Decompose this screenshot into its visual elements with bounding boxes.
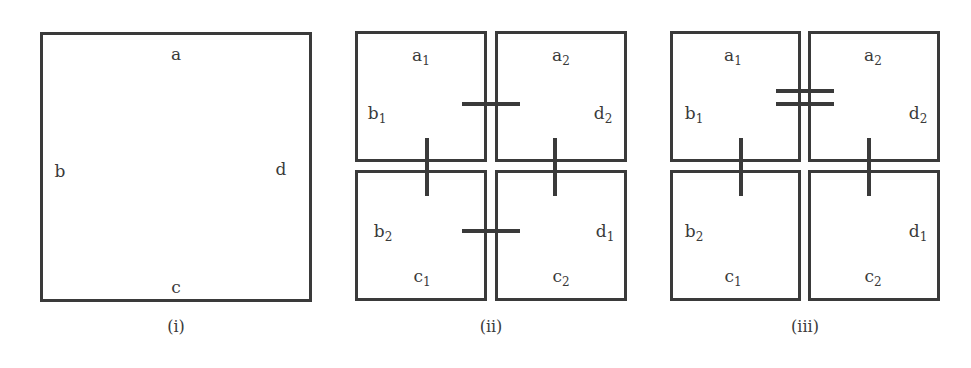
label-b2: b2 <box>685 223 704 240</box>
label-a1: a1 <box>724 47 742 64</box>
label-c1: c1 <box>413 268 430 285</box>
label-d1: d1 <box>596 223 615 240</box>
caption-ii: (ii) <box>480 317 503 336</box>
tick-horizontal-top <box>462 102 520 106</box>
tick-vertical-right <box>553 138 557 196</box>
square-whole <box>40 32 312 302</box>
caption-iii: (iii) <box>791 317 819 336</box>
label-d2: d2 <box>594 105 613 122</box>
tick-horizontal-bottom <box>462 229 520 233</box>
label-b1: b1 <box>368 105 387 122</box>
label-b2: b2 <box>374 223 393 240</box>
label-c2: c2 <box>552 268 569 285</box>
tick-double-lower <box>776 102 834 106</box>
tick-vertical-left <box>739 138 743 196</box>
label-c2: c2 <box>864 268 881 285</box>
label-d2: d2 <box>909 105 928 122</box>
diagram-canvas: a b d c (i) a1 b1 a2 d2 b2 <box>0 0 971 368</box>
label-a2: a2 <box>552 47 570 64</box>
edge-label-d: d <box>276 161 287 178</box>
caption-i: (i) <box>167 317 185 336</box>
label-a1: a1 <box>412 47 430 64</box>
tick-double-upper <box>776 89 834 93</box>
label-b1: b1 <box>685 105 704 122</box>
tick-vertical-left <box>425 138 429 196</box>
edge-label-b: b <box>55 163 66 180</box>
label-d1: d1 <box>909 223 928 240</box>
label-a2: a2 <box>864 47 882 64</box>
tick-vertical-right <box>867 138 871 196</box>
edge-label-a: a <box>171 46 181 63</box>
label-c1: c1 <box>724 268 741 285</box>
edge-label-c: c <box>171 279 181 296</box>
